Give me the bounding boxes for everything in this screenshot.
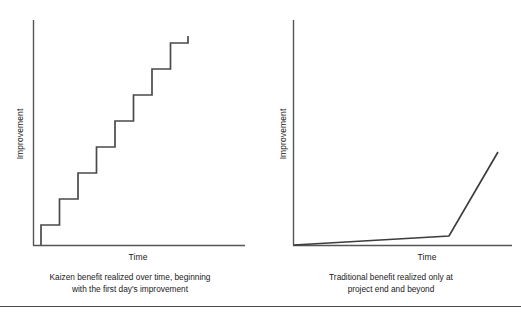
caption-line-1: Kaizen benefit realized over time, begin… — [14, 272, 246, 284]
traditional-benefit-series — [294, 152, 498, 245]
two-panel-figure: Improvement Time Kaizen benefit realized… — [0, 0, 521, 319]
traditional-line-chart — [261, 0, 521, 252]
plot-area-traditional: Improvement — [261, 0, 521, 252]
caption-traditional: Traditional benefit realized only at pro… — [283, 272, 499, 295]
kaizen-staircase-series — [41, 36, 188, 245]
y-axis-label-improvement: Improvement — [15, 98, 25, 170]
footer-clipped-text — [8, 309, 513, 319]
caption-line-2: with the first day's improvement — [14, 284, 246, 296]
x-axis-label-time: Time — [98, 252, 178, 262]
panel-kaizen: Improvement Time Kaizen benefit realized… — [0, 0, 260, 305]
caption-line-1: Traditional benefit realized only at — [283, 272, 499, 284]
x-axis-label-time: Time — [387, 252, 467, 262]
plot-area-kaizen: Improvement — [0, 0, 260, 252]
panel-traditional: Improvement Time Traditional benefit rea… — [261, 0, 521, 305]
y-axis-label-improvement: Improvement — [278, 98, 288, 170]
footer-divider-rule — [0, 306, 521, 307]
caption-kaizen: Kaizen benefit realized over time, begin… — [14, 272, 246, 295]
caption-line-2: project end and beyond — [283, 284, 499, 296]
kaizen-step-chart — [0, 0, 260, 252]
